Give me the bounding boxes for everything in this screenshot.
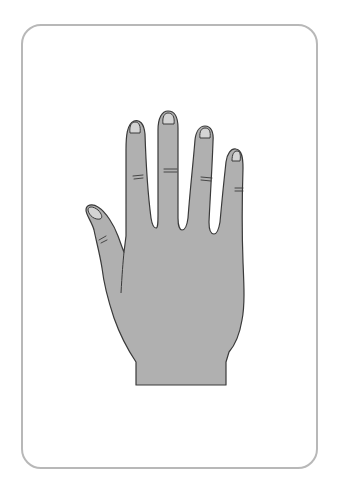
nail-ring-icon <box>200 128 210 138</box>
nail-middle-icon <box>163 113 174 124</box>
nail-index-icon <box>130 122 140 133</box>
nail-pinky-icon <box>232 151 240 161</box>
hand-illustration <box>0 0 342 494</box>
hand-icon <box>86 111 244 385</box>
